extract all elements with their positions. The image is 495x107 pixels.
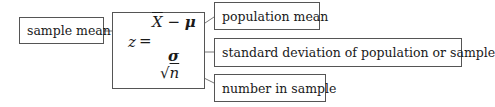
formula-numerator: X − μ — [152, 13, 196, 31]
sqrt-icon: √ — [160, 64, 170, 82]
minus-symbol: − — [163, 13, 185, 31]
mu-symbol: μ — [185, 13, 196, 31]
xbar-symbol: X — [152, 13, 163, 31]
n-symbol: n — [170, 64, 180, 82]
formula-z: z — [128, 33, 136, 51]
population-mean-label: population mean — [214, 2, 320, 30]
std-dev-text: standard deviation of population or samp… — [222, 45, 495, 60]
formula-equals: = — [139, 32, 152, 50]
sample-mean-text: sample mean — [27, 23, 111, 38]
std-dev-label: standard deviation of population or samp… — [214, 38, 462, 67]
sigma-symbol: σ — [168, 47, 179, 65]
sqrt-n: √n — [160, 64, 179, 82]
sample-mean-label: sample mean — [19, 17, 104, 44]
number-in-sample-label: number in sample — [214, 74, 326, 102]
number-in-sample-text: number in sample — [222, 81, 336, 96]
population-mean-text: population mean — [222, 9, 328, 24]
